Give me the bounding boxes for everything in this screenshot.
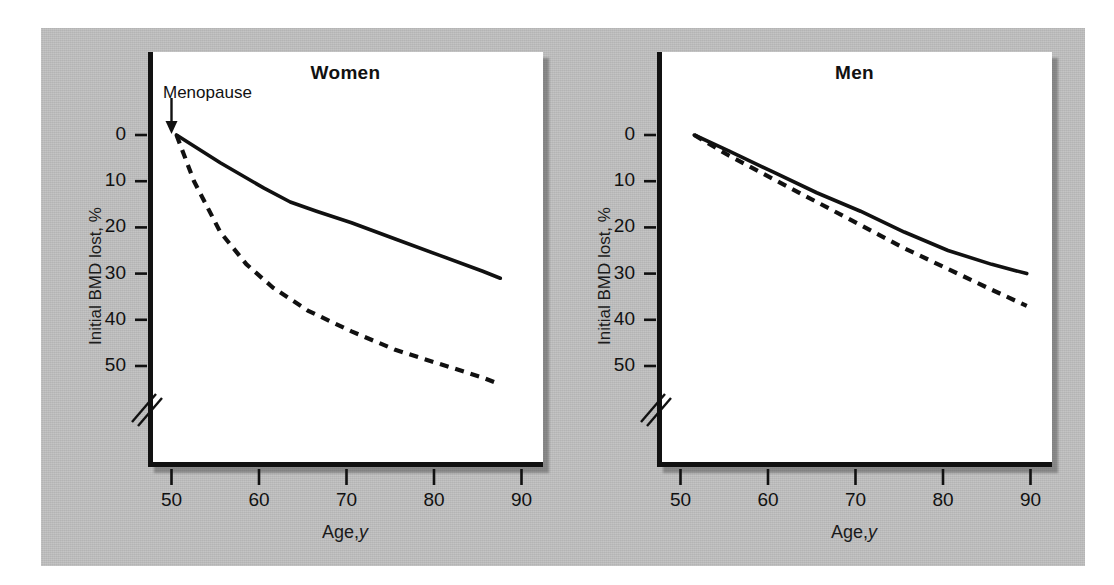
x-tick-label-women-90: 90 bbox=[502, 489, 542, 511]
y-tick-label-women-30: 30 bbox=[92, 262, 126, 284]
x-tick-label-women-50: 50 bbox=[152, 489, 192, 511]
x-axis-label-text: Age, bbox=[322, 522, 359, 542]
y-tick-label-women-0: 0 bbox=[92, 123, 126, 145]
x-tick-label-men-60: 60 bbox=[748, 489, 788, 511]
panel-women-x-axis-label: Age,y bbox=[265, 522, 425, 543]
y-tick-label-men-20: 20 bbox=[601, 215, 635, 237]
series-line-dashed bbox=[694, 135, 1027, 306]
panel-men-x-axis-label: Age,y bbox=[774, 522, 934, 543]
series-line-solid bbox=[177, 135, 501, 278]
y-tick-label-women-10: 10 bbox=[92, 169, 126, 191]
figure-root: Women Menopause Initial BMD lost, % Age,… bbox=[0, 0, 1114, 585]
series-line-solid bbox=[694, 135, 1027, 274]
x-tick-label-women-60: 60 bbox=[239, 489, 279, 511]
panel-men-plot-area bbox=[657, 52, 1052, 467]
x-tick-label-men-90: 90 bbox=[1011, 489, 1051, 511]
x-tick-label-women-70: 70 bbox=[327, 489, 367, 511]
panel-men-curves bbox=[662, 52, 1057, 467]
x-axis-label-unit: y bbox=[868, 522, 877, 542]
x-axis-label-unit: y bbox=[359, 522, 368, 542]
y-tick-label-men-30: 30 bbox=[601, 262, 635, 284]
x-tick-label-men-50: 50 bbox=[661, 489, 701, 511]
panel-women-title: Women bbox=[148, 62, 543, 84]
y-tick-label-men-50: 50 bbox=[601, 354, 635, 376]
y-tick-label-women-40: 40 bbox=[92, 308, 126, 330]
y-tick-label-men-40: 40 bbox=[601, 308, 635, 330]
panel-women-curves bbox=[153, 52, 548, 467]
y-tick-label-women-50: 50 bbox=[92, 354, 126, 376]
panel-men: Men bbox=[657, 52, 1052, 467]
y-tick-label-men-0: 0 bbox=[601, 123, 635, 145]
menopause-annotation-label: Menopause bbox=[163, 83, 252, 103]
panel-women-plot-area bbox=[148, 52, 543, 467]
x-tick-label-men-70: 70 bbox=[836, 489, 876, 511]
panel-men-title: Men bbox=[657, 62, 1052, 84]
x-tick-label-men-80: 80 bbox=[923, 489, 963, 511]
panel-women: Women bbox=[148, 52, 543, 467]
x-axis-label-text: Age, bbox=[831, 522, 868, 542]
y-tick-label-women-20: 20 bbox=[92, 215, 126, 237]
y-tick-label-men-10: 10 bbox=[601, 169, 635, 191]
x-tick-label-women-80: 80 bbox=[414, 489, 454, 511]
